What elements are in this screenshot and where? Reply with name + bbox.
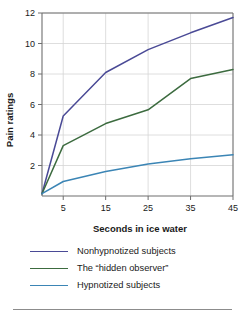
figure: 24681012 515253545 Pain ratings Seconds … (0, 0, 245, 323)
legend-item-label: The “hidden observer” (77, 264, 168, 273)
y-tick-label: 8 (30, 69, 35, 79)
line-chart: 24681012 515253545 Pain ratings Seconds … (0, 0, 245, 240)
chart-legend: Nonhypnotized subjects The “hidden obser… (0, 243, 245, 294)
legend-item: The “hidden observer” (0, 260, 245, 277)
legend-color-swatch (30, 251, 68, 252)
x-axis-ticks (63, 196, 233, 200)
x-tick-label: 15 (101, 203, 111, 213)
x-axis-tick-labels: 515253545 (61, 203, 238, 213)
y-tick-label: 12 (25, 8, 35, 18)
grid-lines (42, 13, 233, 196)
legend-item-label: Nonhypnotized subjects (77, 247, 176, 256)
x-axis-title: Seconds in ice water (93, 223, 187, 234)
legend-item-label: Hypnotized subjects (77, 281, 160, 290)
x-tick-label: 45 (228, 203, 238, 213)
data-series-line (42, 69, 233, 193)
legend-color-swatch (30, 268, 68, 269)
y-axis-title: Pain ratings (4, 93, 15, 147)
legend-color-swatch (30, 285, 68, 286)
y-tick-label: 6 (30, 100, 35, 110)
x-tick-label: 35 (186, 203, 196, 213)
legend-item: Hypnotized subjects (0, 277, 245, 294)
y-tick-label: 10 (25, 39, 35, 49)
y-tick-label: 2 (30, 161, 35, 171)
data-series-line (42, 18, 233, 194)
chart-plot-area: 24681012 515253545 Pain ratings Seconds … (0, 0, 245, 240)
y-tick-label: 4 (30, 130, 35, 140)
data-series-line (42, 155, 233, 194)
footer-divider (13, 309, 232, 310)
data-series-group (42, 18, 233, 194)
y-axis-tick-labels: 24681012 (25, 8, 35, 171)
x-tick-label: 25 (143, 203, 153, 213)
legend-item: Nonhypnotized subjects (0, 243, 245, 260)
x-tick-label: 5 (61, 203, 66, 213)
y-axis-ticks (38, 13, 42, 166)
